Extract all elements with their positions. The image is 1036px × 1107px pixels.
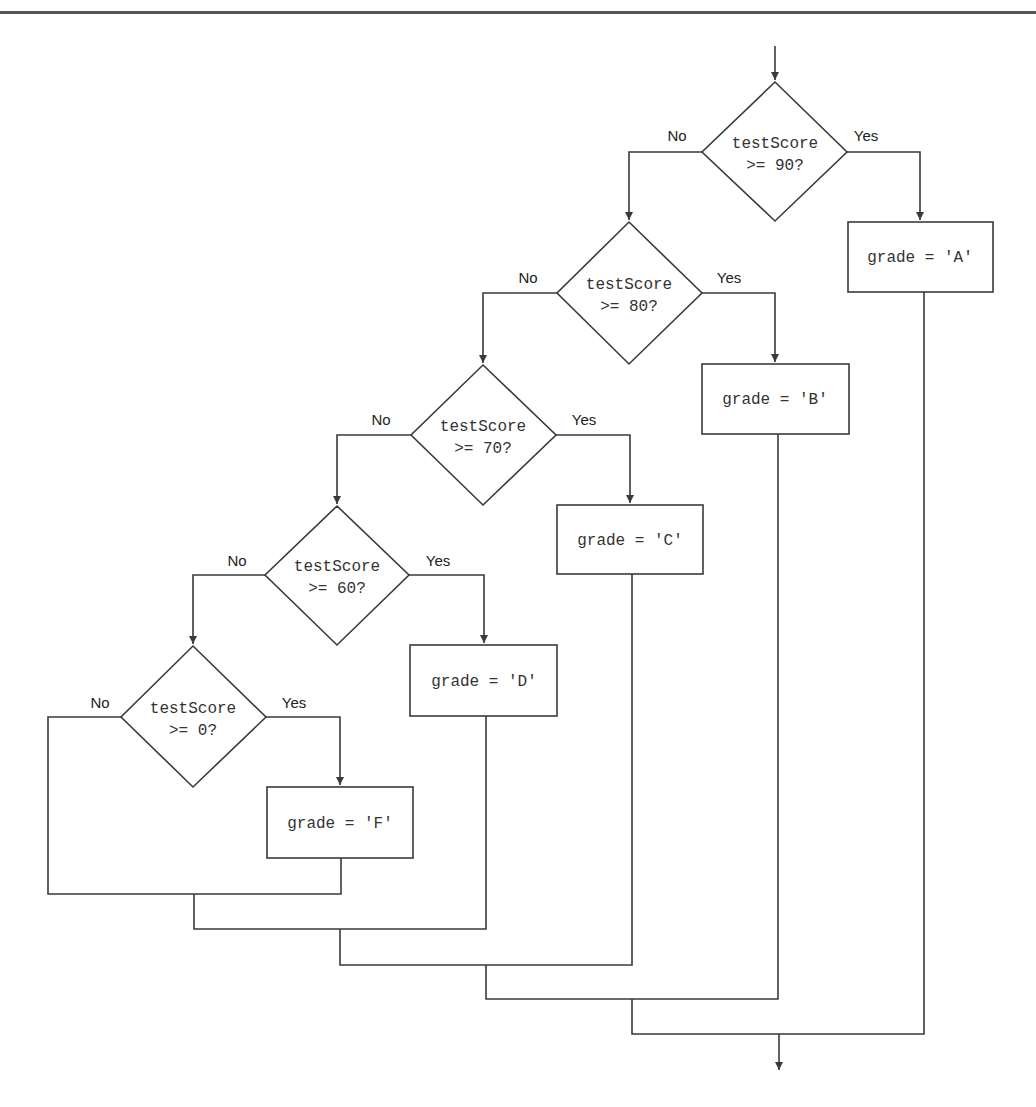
no-label-80: No	[518, 269, 537, 286]
process-grade-b: grade = 'B'	[702, 364, 849, 434]
process-grade-c-label: grade = 'C'	[577, 532, 683, 550]
no-label-90: No	[667, 127, 686, 144]
decision-0: testScore >= 0?	[121, 646, 266, 787]
yes-label-80: Yes	[717, 269, 741, 286]
process-grade-f: grade = 'F'	[267, 787, 413, 858]
decision-90-line1: testScore	[732, 135, 818, 153]
yes-label-70: Yes	[572, 411, 596, 428]
process-grade-f-label: grade = 'F'	[287, 815, 393, 833]
yes-arrow-90	[847, 152, 920, 220]
process-grade-a: grade = 'A'	[848, 222, 993, 292]
no-arrow-90	[629, 152, 702, 220]
decision-0-line1: testScore	[150, 700, 236, 718]
no-arrow-60	[193, 575, 265, 644]
no-arrow-80	[483, 293, 557, 363]
yes-label-60: Yes	[426, 552, 450, 569]
yes-arrow-80	[702, 293, 775, 362]
yes-label-0: Yes	[282, 694, 306, 711]
no-label-0: No	[90, 694, 109, 711]
decision-60-line2: >= 60?	[308, 580, 366, 598]
decision-80-line2: >= 80?	[600, 298, 658, 316]
no-label-60: No	[227, 552, 246, 569]
no-label-70: No	[371, 411, 390, 428]
decision-80: testScore >= 80?	[557, 222, 702, 364]
decision-60-line1: testScore	[294, 558, 380, 576]
process-grade-d: grade = 'D'	[410, 645, 557, 716]
decision-80-line1: testScore	[586, 276, 672, 294]
decision-70: testScore >= 70?	[411, 365, 556, 505]
yes-label-90: Yes	[854, 127, 878, 144]
decision-70-line1: testScore	[440, 418, 526, 436]
yes-arrow-60	[409, 575, 484, 643]
yes-arrow-0	[266, 717, 340, 785]
decision-60: testScore >= 60?	[265, 506, 409, 645]
decision-90: testScore >= 90?	[702, 82, 847, 221]
process-grade-d-label: grade = 'D'	[431, 673, 537, 691]
decision-90-line2: >= 90?	[746, 157, 804, 175]
process-grade-a-label: grade = 'A'	[867, 249, 973, 267]
decision-70-line2: >= 70?	[454, 440, 512, 458]
yes-arrow-70	[556, 435, 630, 503]
no-arrow-70	[337, 435, 411, 504]
decision-0-line2: >= 0?	[169, 722, 217, 740]
process-grade-b-label: grade = 'B'	[722, 391, 828, 409]
flowchart: testScore >= 90? No Yes grade = 'A' test…	[0, 0, 1036, 1107]
process-grade-c: grade = 'C'	[557, 505, 703, 574]
